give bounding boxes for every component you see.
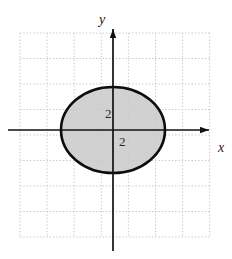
y-axis-label: y: [99, 13, 105, 27]
figure-canvas: [0, 0, 232, 259]
semi-minor-axis-label: 2: [105, 107, 112, 120]
semi-major-axis-label: 2: [119, 135, 126, 148]
ellipse-figure: y x 2 2: [0, 0, 232, 259]
x-axis-label: x: [218, 141, 224, 155]
